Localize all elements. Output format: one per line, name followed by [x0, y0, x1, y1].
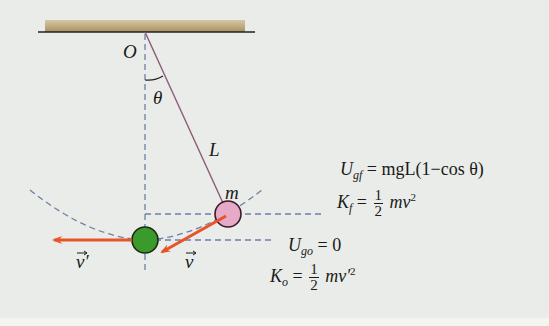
equation-ugf: Ugf = mgL(1−cos θ) — [340, 160, 484, 181]
velocity-arrow-v — [162, 216, 226, 252]
pivot-label: O — [123, 42, 137, 61]
length-label: L — [209, 140, 220, 159]
fraction-half: 12 — [374, 188, 384, 219]
angle-arc — [145, 76, 163, 80]
equation-kf: Kf = 12 mv2 — [337, 188, 416, 219]
mass-label: m — [225, 183, 239, 202]
fraction-half: 12 — [309, 262, 319, 293]
ceiling — [38, 20, 255, 32]
green-ball — [132, 227, 158, 253]
velocity-v-label: v — [185, 252, 193, 271]
equation-ugo: Ugo = 0 — [288, 236, 341, 257]
equation-ko: Ko = 12 mv′2 — [270, 262, 356, 293]
angle-label: θ — [153, 88, 162, 107]
pendulum-string — [145, 32, 228, 214]
vector-arrow-marks — [77, 251, 196, 255]
velocity-v-prime-label: v′ — [76, 252, 89, 271]
pink-ball — [215, 201, 241, 227]
